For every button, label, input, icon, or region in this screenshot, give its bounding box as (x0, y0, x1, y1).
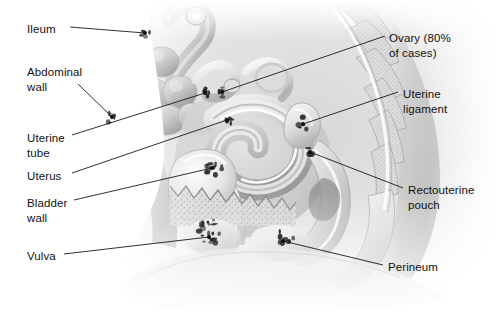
label-line: of cases) (389, 46, 451, 61)
label-line: Ileum (27, 22, 56, 37)
label-line: pouch (408, 198, 474, 213)
label-uterus: Uterus (27, 169, 61, 184)
label-line: Vulva (27, 249, 56, 264)
label-line: Perineum (388, 260, 438, 275)
leader-line-ileum (70, 27, 145, 33)
leader-line-abdominal-wall (78, 84, 112, 117)
label-line: tube (27, 146, 65, 161)
label-bladder-wall: Bladderwall (27, 196, 67, 226)
label-line: Uterine (27, 131, 65, 146)
label-uterine-ligament: Uterineligament (403, 87, 447, 117)
label-line: Uterus (27, 169, 61, 184)
label-line: Abdominal (27, 65, 82, 80)
label-line: Ovary (80% (389, 31, 451, 46)
label-vulva: Vulva (27, 249, 56, 264)
label-line: ligament (403, 102, 447, 117)
leader-dot-ileum (143, 31, 147, 35)
leader-dot-uterine-tube (203, 91, 207, 95)
leader-dot-uterine-ligament (301, 122, 305, 126)
label-uterine-tube: Uterinetube (27, 131, 65, 161)
label-line: wall (27, 211, 67, 226)
label-line: Bladder (27, 196, 67, 211)
leader-dot-rectouterine-pouch (308, 150, 312, 154)
leader-dot-bladder-wall (210, 166, 214, 170)
label-line: Rectouterine (408, 183, 474, 198)
anatomy-figure: IleumAbdominalwallUterinetubeUterusBladd… (0, 0, 498, 313)
label-perineum: Perineum (388, 260, 438, 275)
leader-dot-perineum (281, 239, 285, 243)
label-ileum: Ileum (27, 22, 56, 37)
label-line: Uterine (403, 87, 447, 102)
label-ovary: Ovary (80%of cases) (389, 31, 451, 61)
label-line: wall (27, 80, 82, 95)
leader-dot-ovary (220, 90, 224, 94)
label-rectouterine-pouch: Rectouterinepouch (408, 183, 474, 213)
label-abdominal-wall: Abdominalwall (27, 65, 82, 95)
leader-dot-uterus (225, 118, 229, 122)
leader-dot-vulva (207, 235, 211, 239)
leader-dot-abdominal-wall (110, 115, 114, 119)
